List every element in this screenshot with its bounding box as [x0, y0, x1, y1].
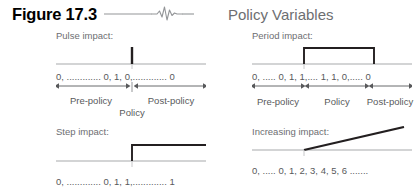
- panel-pulse-segment-labels: Pre-policy Post-policy Policy: [56, 95, 206, 119]
- figure-header: Figure 17.3 Policy Variables: [0, 0, 418, 28]
- panel-step-sequence: 0, ............. 0, 1, 1,............. 1: [56, 176, 206, 187]
- panel-step-title: Step impact:: [56, 126, 206, 137]
- panel-period-segment-post: Post-policy: [362, 96, 418, 107]
- panel-pulse-center-label: Policy: [102, 107, 162, 118]
- panel-period-sequence: 0, ..... 0, 1, 1,.... 1, 1, 0,..... 0: [252, 71, 412, 82]
- panel-period-axis-labels: [252, 82, 412, 96]
- panel-period-segment-policy: Policy: [309, 96, 365, 107]
- panel-period-segment-pre: Pre-policy: [250, 96, 306, 107]
- panel-period-segment-labels: Pre-policy Policy Post-policy: [252, 96, 412, 108]
- panel-period-impact: Period impact: 0, ..... 0, 1, 1,.... 1, …: [252, 30, 412, 116]
- panel-increasing-sequence: 0, ..... 0, 1, 2, 3, 4, 5, 6 .......: [252, 165, 412, 176]
- panel-pulse-segment-post: Post-policy: [136, 95, 206, 106]
- ekg-squiggle-icon: [152, 7, 182, 20]
- panel-pulse-title: Pulse impact:: [56, 30, 206, 41]
- figure-title: Policy Variables: [228, 6, 334, 23]
- panel-pulse-sequence: 0, ............. 0, 1, 0,............. 0: [56, 71, 206, 82]
- panel-pulse-segment-pre: Pre-policy: [56, 95, 126, 106]
- figure-number: Figure 17.3: [12, 5, 97, 24]
- panel-step-plot: [56, 137, 206, 169]
- panel-pulse-plot: [56, 41, 206, 71]
- panel-step-impact: Step impact: 0, ............. 0, 1, 1,..…: [56, 126, 206, 188]
- panel-period-plot: [252, 41, 412, 71]
- panel-increasing-impact: Increasing impact: 0, ..... 0, 1, 2, 3, …: [252, 126, 412, 188]
- header-rule: [104, 6, 222, 22]
- panel-period-title: Period impact:: [252, 30, 412, 41]
